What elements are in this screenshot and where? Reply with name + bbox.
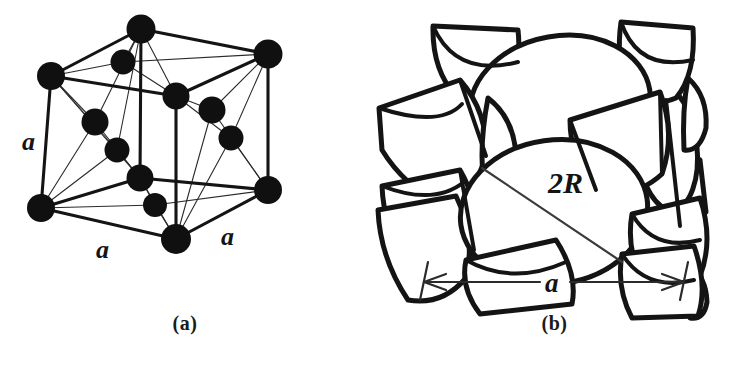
corner-sphere-right-edge-upper bbox=[684, 78, 707, 150]
panel-b-hard-sphere: 2R a (b) bbox=[370, 0, 739, 381]
atom-face-right bbox=[219, 126, 244, 151]
atom-face-top-back bbox=[111, 50, 136, 75]
atom-corner-top-back bbox=[127, 15, 156, 44]
caption-a: (a) bbox=[0, 312, 370, 335]
dimension-label-a: a bbox=[545, 268, 559, 298]
panel-a-ball-and-stick: a a a (a) bbox=[0, 0, 370, 381]
edge-label-a-left: a bbox=[22, 127, 35, 156]
caption-b: (b) bbox=[370, 312, 739, 335]
atom-corner-bottom-back bbox=[127, 165, 154, 192]
atom-corner-bottom-front bbox=[161, 224, 191, 254]
sphere-packing-group bbox=[378, 21, 707, 318]
atom-corner-bottom-right bbox=[254, 176, 282, 204]
atom-corner-top-left bbox=[37, 62, 65, 90]
figure-root: a a a (a) bbox=[0, 0, 739, 381]
atom-face-left bbox=[82, 109, 109, 136]
diameter-label-2R: 2R bbox=[547, 166, 583, 199]
atom-face-front bbox=[105, 138, 130, 163]
atom-corner-bottom-left bbox=[27, 194, 55, 222]
atom-corner-top-right bbox=[254, 40, 283, 69]
atom-face-right-back bbox=[199, 97, 226, 124]
atom-face-top-front bbox=[163, 83, 190, 110]
atom-face-bottom bbox=[143, 193, 167, 217]
edge-label-a-bottom-right: a bbox=[221, 222, 234, 251]
edge-label-a-bottom-left: a bbox=[96, 235, 109, 264]
